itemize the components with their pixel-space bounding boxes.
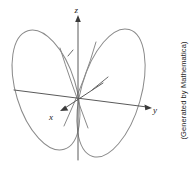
diagonal-tick-icon [92, 77, 108, 90]
upper-tick-icon [68, 50, 73, 56]
plot-canvas: z y x [0, 0, 191, 180]
mathematica-figure: z y x (Generated by Mathematica) [0, 0, 191, 180]
axis-label-x: x [48, 112, 53, 122]
credit-caption: (Generated by Mathematica) [176, 0, 190, 180]
axis-y [14, 90, 152, 110]
axis-label-y: y [152, 105, 157, 115]
credit-caption-text: (Generated by Mathematica) [179, 41, 188, 139]
axis-label-z: z [74, 5, 79, 15]
